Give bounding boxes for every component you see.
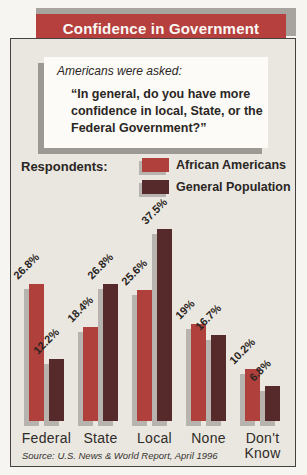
bar-none-general-population bbox=[211, 335, 226, 421]
question-lead: Americans were asked: bbox=[57, 64, 182, 78]
bar-state-african-americans bbox=[83, 327, 98, 421]
bar-state-general-population bbox=[103, 284, 118, 421]
legend-title: Respondents: bbox=[21, 159, 108, 174]
legend-swatch-african-americans bbox=[142, 158, 169, 172]
question-box: Americans were asked: “In general, do yo… bbox=[44, 57, 268, 148]
bar-none-african-americans bbox=[191, 324, 206, 421]
question-text: “In general, do you have more confidence… bbox=[71, 86, 263, 137]
category-label-don-t-know: Don't Know bbox=[231, 431, 295, 461]
question-line-3: Federal Government?” bbox=[71, 120, 263, 137]
question-line-1: “In general, do you have more bbox=[71, 86, 263, 103]
page-title: Confidence in Government bbox=[63, 20, 260, 37]
confidence-in-government-infographic: Confidence in Government Americans were … bbox=[0, 0, 307, 475]
bar-don-t-know-general-population bbox=[265, 386, 280, 421]
bar-local-general-population bbox=[157, 229, 172, 421]
question-line-2: confidence in local, State, or the bbox=[71, 103, 263, 120]
source-note: Source: U.S. News & World Report, April … bbox=[22, 450, 218, 461]
legend-label-african-americans: African Americans bbox=[176, 158, 286, 172]
legend-swatch-general-population bbox=[142, 180, 169, 194]
bar-federal-general-population bbox=[49, 359, 64, 421]
bar-local-african-americans bbox=[137, 290, 152, 421]
legend-label-general-population: General Population bbox=[176, 180, 291, 194]
